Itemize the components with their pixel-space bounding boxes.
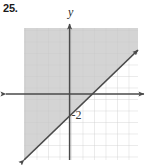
axes-and-line-layer — [0, 0, 150, 168]
y-axis-label: y — [68, 6, 73, 18]
boundary-line — [24, 50, 138, 160]
inequality-graph-figure: 25. y -2 — [0, 0, 150, 168]
y-intercept-annotation: -2 — [72, 109, 82, 121]
